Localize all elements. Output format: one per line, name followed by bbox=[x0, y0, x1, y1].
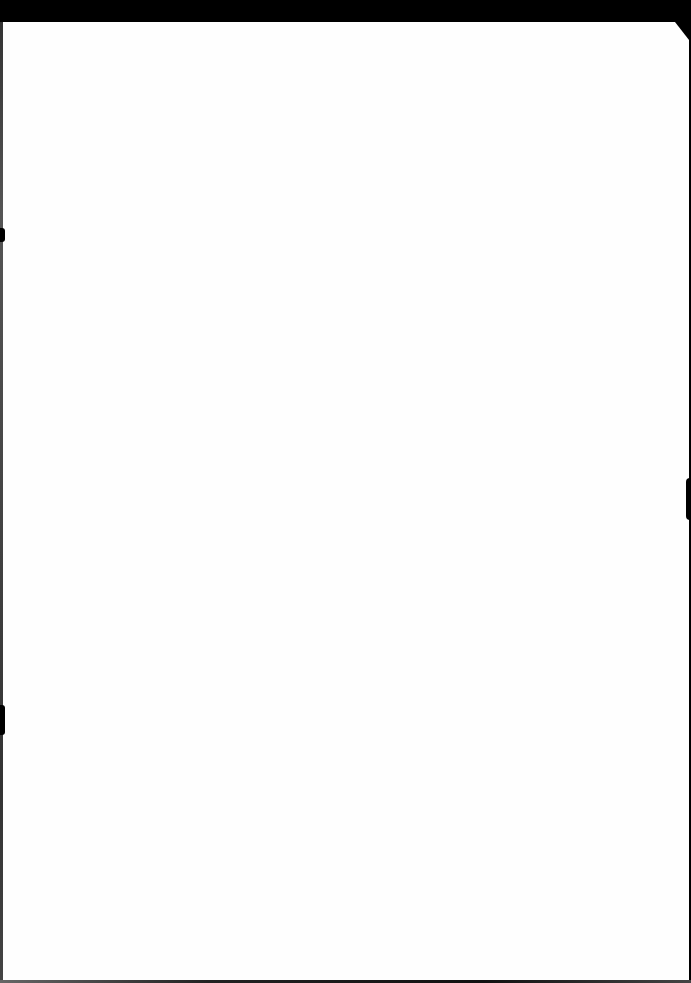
page-content bbox=[42, 82, 649, 940]
binding-hole-mark-top bbox=[0, 228, 5, 242]
scanned-page-frame bbox=[0, 0, 691, 983]
right-edge-scan-mark bbox=[686, 478, 691, 520]
binding-hole-mark-bottom bbox=[0, 705, 5, 735]
left-binding-edge bbox=[0, 22, 3, 980]
blank-paper-sheet bbox=[2, 22, 689, 980]
